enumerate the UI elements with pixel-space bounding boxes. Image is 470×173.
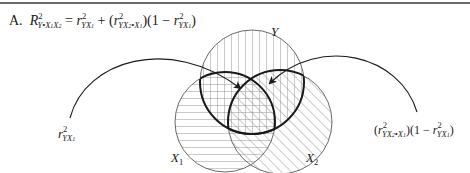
left-annotation: r2YX1 — [58, 124, 75, 143]
label-x1: X1 — [171, 150, 183, 167]
right-annotation: (r2YX2•X1)(1 − r2YX1) — [374, 120, 454, 139]
venn-diagram — [0, 0, 470, 173]
label-y: Y — [271, 24, 278, 40]
label-x2: X2 — [306, 150, 318, 167]
